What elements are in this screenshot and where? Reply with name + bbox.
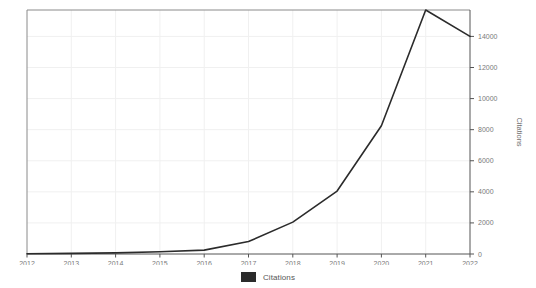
x-tick-label: 2017 xyxy=(241,260,257,265)
y-axis-ticks: 02000400060008000100001200014000 xyxy=(470,33,498,258)
gridlines-group xyxy=(27,10,470,254)
x-tick-label: 2015 xyxy=(152,260,168,265)
y-tick-label: 6000 xyxy=(478,157,494,164)
y-tick-label: 8000 xyxy=(478,126,494,133)
y-tick-label: 2000 xyxy=(478,219,494,226)
x-tick-label: 2018 xyxy=(285,260,301,265)
y-tick-label: 10000 xyxy=(478,95,498,102)
x-tick-label: 2020 xyxy=(374,260,390,265)
legend-swatch-citations xyxy=(241,272,256,282)
x-tick-label: 2012 xyxy=(19,260,35,265)
legend-label-citations: Citations xyxy=(263,273,295,282)
x-tick-label: 2014 xyxy=(108,260,124,265)
x-axis-ticks: 2012201320142015201620172018201920202021… xyxy=(19,254,478,265)
x-tick-label: 2016 xyxy=(196,260,212,265)
y-tick-label: 4000 xyxy=(478,188,494,195)
chart-legend: Citations xyxy=(0,266,536,288)
chart-svg: 02000400060008000100001200014000 2012201… xyxy=(0,0,536,265)
y-tick-label: 14000 xyxy=(478,33,498,40)
y-tick-label: 0 xyxy=(478,251,482,258)
x-tick-label: 2021 xyxy=(418,260,434,265)
plot-area: 02000400060008000100001200014000 2012201… xyxy=(0,0,536,265)
y-axis-title: Citations xyxy=(515,117,524,146)
x-tick-label: 2022 xyxy=(462,260,478,265)
x-tick-label: 2013 xyxy=(64,260,80,265)
y-tick-label: 12000 xyxy=(478,64,498,71)
x-tick-label: 2019 xyxy=(329,260,345,265)
citations-line-chart: 02000400060008000100001200014000 2012201… xyxy=(0,0,536,288)
